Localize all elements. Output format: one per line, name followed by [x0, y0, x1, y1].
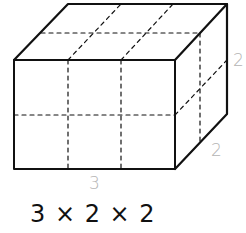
depth-label: 2: [211, 140, 222, 160]
unit-grid-lines: [14, 4, 227, 169]
volume-formula: 3 × 2 × 2: [30, 200, 156, 228]
length-label: 3: [89, 173, 100, 193]
height-label: 2: [233, 50, 244, 70]
cuboid-diagram: [0, 0, 246, 233]
